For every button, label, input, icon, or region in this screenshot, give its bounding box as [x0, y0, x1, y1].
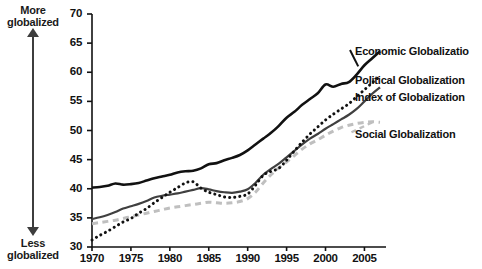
- axes: [87, 14, 386, 251]
- series-line-social-globalization: [92, 122, 380, 224]
- x-tick-label: 1975: [111, 252, 151, 264]
- y-tick-label: 70: [58, 7, 82, 19]
- y-tick-label: 55: [58, 94, 82, 106]
- y-tick-label: 65: [58, 36, 82, 48]
- series-line-economic-globalization: [92, 51, 380, 187]
- y-tick-label: 50: [58, 124, 82, 136]
- series-line-index-of-globalization: [92, 87, 380, 219]
- x-tick-label: 1995: [267, 252, 307, 264]
- chart-figure: More globalized Less globalized 30354045…: [0, 0, 482, 269]
- legend-label-index-of-globalization: Index of Globalization: [355, 91, 465, 103]
- y-tick-label: 60: [58, 65, 82, 77]
- series-lines: [92, 51, 380, 240]
- y-tick-label: 35: [58, 211, 82, 223]
- x-tick-label: 1985: [189, 252, 229, 264]
- x-tick-label: 1980: [150, 252, 190, 264]
- x-tick-label: 2005: [344, 252, 384, 264]
- legend-label-economic-globalization: Economic Globalizatio: [355, 45, 469, 57]
- x-tick-label: 1970: [72, 252, 112, 264]
- y-tick-label: 45: [58, 153, 82, 165]
- x-tick-label: 1990: [228, 252, 268, 264]
- y-tick-label: 30: [58, 240, 82, 252]
- legend-label-political-globalization: Political Globalization: [355, 74, 465, 86]
- series-line-political-globalization: [92, 76, 380, 240]
- legend-label-social-globalization: Social Globalization: [355, 128, 456, 140]
- x-tick-label: 2000: [306, 252, 346, 264]
- y-tick-label: 40: [58, 182, 82, 194]
